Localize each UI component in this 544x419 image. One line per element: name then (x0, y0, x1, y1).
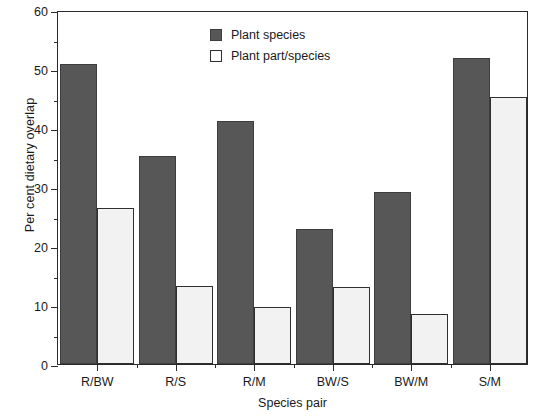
bar (490, 97, 527, 364)
x-tick-mark (333, 364, 334, 371)
legend-item-plant-part-species: Plant part/species (210, 45, 330, 66)
y-tick-mark (51, 366, 58, 367)
y-minor-tick-mark (54, 278, 58, 279)
y-tick-label: 30 (34, 182, 48, 196)
legend-swatch-dark-square-icon (210, 29, 222, 41)
x-minor-tick-mark (137, 364, 138, 368)
bar (453, 58, 490, 364)
x-minor-tick-mark (215, 364, 216, 368)
y-minor-tick-mark (54, 42, 58, 43)
bar (139, 156, 176, 364)
bar-chart-figure: Per cent dietary overlap 0102030405060 R… (0, 0, 544, 419)
legend-label: Plant part/species (231, 49, 330, 63)
legend-item-plant-species: Plant species (210, 24, 330, 45)
y-minor-tick-mark (54, 337, 58, 338)
x-tick-mark (254, 364, 255, 371)
x-minor-tick-mark (451, 364, 452, 368)
legend-label: Plant species (231, 28, 305, 42)
y-minor-tick-mark (54, 219, 58, 220)
y-tick-mark (51, 71, 58, 72)
x-tick-label: R/BW (81, 375, 114, 389)
x-tick-mark (176, 364, 177, 371)
bar (97, 208, 134, 364)
bar (60, 64, 97, 364)
bar (374, 192, 411, 364)
y-tick-label: 0 (41, 359, 48, 373)
y-tick-label: 10 (34, 300, 48, 314)
y-tick-mark (51, 307, 58, 308)
legend-swatch-open-square-icon (210, 50, 222, 62)
y-tick-label: 50 (34, 64, 48, 78)
x-tick-label: R/S (165, 375, 186, 389)
bar (254, 307, 291, 364)
bar (333, 287, 370, 364)
x-minor-tick-mark (294, 364, 295, 368)
bar (296, 229, 333, 364)
y-tick-mark (51, 12, 58, 13)
x-tick-label: BW/M (394, 375, 428, 389)
x-tick-mark (97, 364, 98, 371)
y-tick-mark (51, 130, 58, 131)
y-tick-label: 60 (34, 5, 48, 19)
x-tick-label: R/M (243, 375, 266, 389)
bar (411, 314, 448, 364)
y-tick-label: 20 (34, 241, 48, 255)
plot-area: 0102030405060 R/BWR/SR/MBW/SBW/MS/M Plan… (57, 11, 528, 365)
x-tick-mark (411, 364, 412, 371)
x-tick-mark (490, 364, 491, 371)
y-minor-tick-mark (54, 101, 58, 102)
y-tick-mark (51, 189, 58, 190)
y-minor-tick-mark (54, 160, 58, 161)
x-tick-label: S/M (479, 375, 501, 389)
x-axis-title: Species pair (57, 396, 528, 410)
y-tick-mark (51, 248, 58, 249)
bar (217, 121, 254, 364)
chart-legend: Plant species Plant part/species (210, 24, 330, 66)
x-tick-label: BW/S (317, 375, 349, 389)
bar (176, 286, 213, 364)
y-tick-label: 40 (34, 123, 48, 137)
x-minor-tick-mark (372, 364, 373, 368)
